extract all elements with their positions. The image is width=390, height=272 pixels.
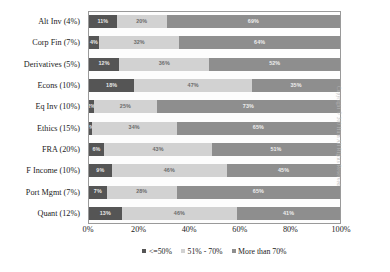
bar-segment-value-label: 51%: [270, 147, 281, 152]
copyright-watermark: Copyright © 300 Hum All Rights Reserved: [336, 86, 342, 186]
bar-segment: 6%: [89, 143, 104, 156]
bar-segment: 11%: [89, 15, 117, 28]
bar-segment: 46%: [122, 207, 237, 220]
bar-segment: 13%: [89, 207, 122, 220]
y-axis-category-labels: Alt Inv (4%)Corp Fin (7%)Derivatives (5%…: [0, 12, 84, 223]
bar-segment: 64%: [179, 36, 340, 49]
bar-segment: 65%: [177, 186, 340, 199]
x-axis-ticks: 0%20%40%60%80%100%: [88, 225, 341, 239]
bar-segment-value-label: 12%: [99, 61, 110, 66]
bar-segment-value-label: 46%: [174, 211, 185, 216]
bar-segment: 65%: [177, 122, 340, 135]
y-axis-label: F Income (10%): [0, 164, 84, 177]
legend-swatch-icon: [181, 249, 185, 253]
bar-segment: 9%: [89, 164, 112, 177]
bar-row: 18%47%35%: [89, 79, 340, 92]
bar-segment-value-label: 28%: [136, 189, 147, 194]
bar-segment-value-label: 46%: [164, 168, 175, 173]
y-axis-label: Derivatives (5%): [0, 58, 84, 71]
bar-segment-value-label: 47%: [188, 83, 199, 88]
bar-segment-value-label: 52%: [269, 61, 280, 66]
legend-item[interactable]: More than 70%: [232, 247, 287, 256]
bar-segment: 69%: [167, 15, 340, 28]
legend-swatch-icon: [142, 249, 146, 253]
legend-item[interactable]: 51% - 70%: [181, 247, 223, 256]
bar-segment: 35%: [252, 79, 340, 92]
bar-segment-value-label: 41%: [283, 211, 294, 216]
bar-row: 9%46%45%: [89, 164, 340, 177]
legend-label: <=50%: [149, 247, 172, 256]
bar-segment-value-label: 13%: [100, 211, 111, 216]
bar-row: 12%36%52%: [89, 58, 340, 71]
bar-segment-value-label: 7%: [94, 189, 102, 194]
bar-segment-value-label: 25%: [120, 104, 131, 109]
bar-segment: 7%: [89, 186, 107, 199]
bar-row: 7%28%65%: [89, 186, 340, 199]
bar-row: 13%46%41%: [89, 207, 340, 220]
y-axis-label: Alt Inv (4%): [0, 15, 84, 28]
bar-rows: 11%20%69%4%32%64%12%36%52%18%47%35%2%25%…: [89, 12, 340, 223]
bar-segment-value-label: 43%: [152, 147, 163, 152]
bar-segment: 52%: [209, 58, 340, 71]
bar-segment-value-label: 4%: [90, 40, 98, 45]
bar-segment: 47%: [134, 79, 252, 92]
bar-segment-value-label: 73%: [243, 104, 254, 109]
bar-segment-value-label: 18%: [106, 83, 117, 88]
x-axis-tick-label: 80%: [283, 225, 298, 234]
bar-segment: 41%: [237, 207, 340, 220]
bar-segment-value-label: 64%: [254, 40, 265, 45]
bar-segment-value-label: 45%: [278, 168, 289, 173]
bar-segment: 18%: [89, 79, 134, 92]
bar-segment-value-label: 34%: [129, 125, 140, 130]
legend-label: More than 70%: [238, 247, 287, 256]
x-axis-tick-label: 100%: [331, 225, 350, 234]
bar-segment: 73%: [157, 100, 340, 113]
bar-segment: 20%: [117, 15, 167, 28]
bar-segment: 4%: [89, 36, 99, 49]
bar-segment: 28%: [107, 186, 177, 199]
legend-item[interactable]: <=50%: [142, 247, 172, 256]
bar-segment-value-label: 11%: [97, 19, 108, 24]
y-axis-label: Quant (12%): [0, 207, 84, 220]
bar-segment: 46%: [112, 164, 227, 177]
bar-segment: 36%: [119, 58, 209, 71]
bar-row: 6%43%51%: [89, 143, 340, 156]
bar-segment: 12%: [89, 58, 119, 71]
bar-segment-value-label: 20%: [136, 19, 147, 24]
bar-segment: 32%: [99, 36, 179, 49]
stacked-bar-chart: Alt Inv (4%)Corp Fin (7%)Derivatives (5%…: [0, 0, 390, 272]
x-axis-tick-label: 60%: [232, 225, 247, 234]
bar-segment-value-label: 65%: [253, 125, 264, 130]
x-axis-tick-label: 40%: [182, 225, 197, 234]
x-axis-tick-label: 20%: [131, 225, 146, 234]
y-axis-label: Corp Fin (7%): [0, 36, 84, 49]
bar-row: 1%34%65%: [89, 122, 340, 135]
y-axis-label: Eq Inv (10%): [0, 100, 84, 113]
bar-segment: 51%: [212, 143, 340, 156]
bar-segment: 25%: [94, 100, 157, 113]
y-axis-label: Ethics (15%): [0, 122, 84, 135]
bar-row: 2%25%73%: [89, 100, 340, 113]
bar-row: 4%32%64%: [89, 36, 340, 49]
bar-segment: 43%: [104, 143, 212, 156]
legend-label: 51% - 70%: [187, 247, 222, 256]
bar-segment-value-label: 36%: [159, 61, 170, 66]
y-axis-label: Port Mgmt (7%): [0, 186, 84, 199]
y-axis-label: Econs (10%): [0, 79, 84, 92]
bar-segment-value-label: 69%: [248, 19, 259, 24]
bar-segment: 45%: [227, 164, 340, 177]
bar-segment-value-label: 35%: [291, 83, 302, 88]
bar-row: 11%20%69%: [89, 15, 340, 28]
y-axis-label: FRA (20%): [0, 143, 84, 156]
x-axis-tick-label: 0%: [83, 225, 94, 234]
bar-segment-value-label: 65%: [253, 189, 264, 194]
bar-segment: 34%: [92, 122, 177, 135]
chart-legend: <=50%51% - 70%More than 70%: [88, 243, 341, 259]
legend-swatch-icon: [232, 249, 236, 253]
bar-segment-value-label: 6%: [93, 147, 101, 152]
bar-segment-value-label: 9%: [96, 168, 104, 173]
bar-segment-value-label: 32%: [134, 40, 145, 45]
